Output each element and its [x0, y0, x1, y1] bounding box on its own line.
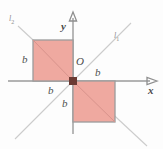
line-l2-label: l2 [9, 15, 14, 25]
origin-marker [69, 77, 77, 85]
line-l2-label-subscript: 2 [11, 19, 14, 25]
line-l1-label: l1 [114, 32, 119, 42]
figure-canvas [0, 0, 163, 149]
b-bottom-upper-square: b [48, 85, 54, 96]
b-top-lower-square: b [95, 67, 101, 78]
line-l1-label-subscript: 1 [116, 36, 119, 42]
b-left-upper-square: b [22, 54, 28, 65]
origin-label: O [76, 56, 84, 67]
x-axis-label: x [148, 85, 154, 96]
geometry-figure: y x O l2 l1 b b b b [0, 0, 163, 149]
b-left-lower-square: b [62, 98, 68, 109]
y-axis-label: y [61, 21, 66, 32]
